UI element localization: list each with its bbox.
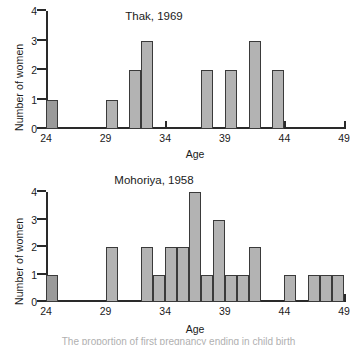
y-axis-tick	[37, 273, 46, 275]
chart-panel-thak: Number of women Thak, 1969 0123424293439…	[0, 0, 357, 172]
x-axis-label: Age	[155, 323, 235, 335]
y-axis-tick-label: 2	[21, 65, 37, 75]
histogram-bar	[141, 247, 153, 302]
x-axis-tick-label: 49	[331, 305, 357, 317]
x-axis-tick	[344, 121, 346, 129]
x-axis-tick-label: 44	[271, 305, 297, 317]
y-axis-tick-label: 2	[21, 242, 37, 252]
chart-panel-mohoriya: Number of women Mohoriya, 1958 012342429…	[0, 172, 357, 344]
y-axis-tick	[37, 300, 46, 302]
y-axis-tick-label: 4	[21, 6, 37, 16]
histogram-bar	[272, 70, 284, 129]
histogram-figure: Number of women Thak, 1969 0123424293439…	[0, 0, 357, 345]
x-axis-tick-label: 29	[93, 305, 119, 317]
histogram-bar	[177, 247, 189, 302]
y-axis-tick	[37, 190, 46, 192]
figure-caption: The proportion of first pregnancy ending…	[0, 336, 357, 345]
histogram-bar	[201, 275, 213, 303]
histogram-bar	[201, 70, 213, 129]
y-axis-tick-label: 1	[21, 95, 37, 105]
y-axis-tick-label: 3	[21, 36, 37, 46]
histogram-bar	[213, 220, 225, 303]
histogram-bar	[320, 275, 332, 303]
histogram-bar	[189, 192, 201, 302]
y-axis-tick	[37, 98, 46, 100]
plot-area-mohoriya: 01234242934394449	[46, 192, 344, 302]
histogram-bar	[141, 41, 153, 130]
x-axis-line	[46, 127, 346, 129]
y-axis-tick-label: 4	[21, 187, 37, 197]
histogram-bar	[249, 41, 261, 130]
histogram-bar	[225, 275, 237, 303]
plot-area-thak: 01234242934394449	[46, 11, 344, 129]
x-axis-tick-label: 39	[212, 305, 238, 317]
x-axis-label: Age	[155, 148, 235, 160]
x-axis-tick	[344, 294, 346, 302]
chart-title-mohoriya: Mohoriya, 1958	[34, 174, 274, 186]
x-axis-tick-label: 44	[271, 132, 297, 144]
x-axis-tick-label: 49	[331, 132, 357, 144]
x-axis-tick	[165, 121, 167, 129]
histogram-bar	[237, 275, 249, 303]
histogram-bar	[225, 70, 237, 129]
x-axis-tick	[284, 121, 286, 129]
x-axis-tick-label: 39	[212, 132, 238, 144]
histogram-bar	[46, 100, 58, 130]
histogram-bar	[165, 247, 177, 302]
histogram-bar	[308, 275, 320, 303]
x-axis-tick-label: 29	[93, 132, 119, 144]
x-axis-tick-label: 24	[33, 305, 59, 317]
y-axis-tick	[37, 9, 46, 11]
y-axis-tick	[37, 68, 46, 70]
y-axis-label: Number of women	[13, 218, 25, 305]
x-axis-tick-label: 34	[152, 305, 178, 317]
histogram-bar	[284, 275, 296, 303]
y-axis-tick	[37, 39, 46, 41]
histogram-bar	[129, 70, 141, 129]
y-axis-tick-label: 1	[21, 270, 37, 280]
histogram-bar	[106, 247, 118, 302]
x-axis-tick-label: 34	[152, 132, 178, 144]
y-axis-label: Number of women	[13, 44, 25, 131]
histogram-bar	[153, 275, 165, 303]
histogram-bar	[249, 247, 261, 302]
y-axis-tick	[37, 218, 46, 220]
histogram-bar	[106, 100, 118, 130]
histogram-bar	[332, 275, 344, 303]
y-axis-tick-label: 3	[21, 215, 37, 225]
x-axis-tick-label: 24	[33, 132, 59, 144]
y-axis-tick	[37, 127, 46, 129]
y-axis-tick	[37, 245, 46, 247]
histogram-bar	[46, 275, 58, 303]
